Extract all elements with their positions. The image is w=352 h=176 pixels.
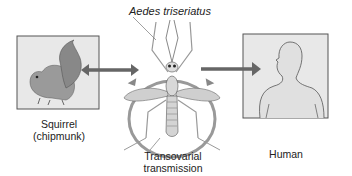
human-label: Human [255, 148, 317, 160]
cycle-leader-line [150, 138, 160, 150]
transovarial-label-line2: transmission [128, 162, 218, 174]
squirrel-label-line1: Squirrel [20, 118, 98, 130]
transovarial-label: Transovarial transmission [128, 150, 218, 174]
mosquito-icon [124, 20, 220, 150]
mosquito-species-label: Aedes triseriatus [110, 5, 230, 17]
human-panel [243, 34, 328, 118]
squirrel-label-line2: (chipmunk) [20, 130, 98, 142]
squirrel-label: Squirrel (chipmunk) [20, 118, 98, 142]
title-leader-line [133, 17, 156, 40]
arrow-to-human [201, 62, 261, 76]
transovarial-label-line1: Transovarial [128, 150, 218, 162]
